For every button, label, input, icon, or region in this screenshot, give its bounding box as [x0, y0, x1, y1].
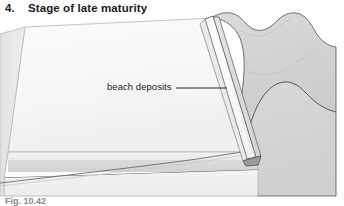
figure-root: 4. Stage of late maturity [0, 0, 344, 206]
callout-beach-deposits: beach deposits [107, 81, 172, 92]
block-diagram-illustration [0, 0, 344, 206]
figure-caption: Fig. 10.42 [5, 197, 185, 206]
figure-caption-text: Fig. 10.42 [5, 197, 185, 206]
